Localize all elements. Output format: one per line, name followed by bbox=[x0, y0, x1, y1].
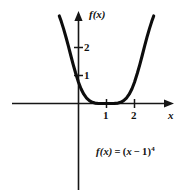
x-axis-label: x bbox=[168, 110, 174, 121]
y-tick-label-1: 1 bbox=[84, 70, 90, 81]
x-axis-arrow-icon bbox=[164, 99, 174, 107]
caption-exponent: 4 bbox=[151, 145, 155, 153]
caption-function-name: f(x) bbox=[96, 146, 113, 157]
y-axis-label: f(x) bbox=[89, 9, 106, 20]
y-tick-label-2: 2 bbox=[84, 42, 90, 53]
x-tick-label-1: 1 bbox=[103, 110, 109, 121]
x-tick-label-2: 2 bbox=[131, 110, 137, 121]
y-axis-arrow-icon bbox=[74, 11, 82, 21]
caption-minus: − bbox=[132, 146, 142, 157]
function-caption: f(x)=(x−1)4 bbox=[96, 146, 155, 157]
quartic-curve bbox=[59, 16, 153, 104]
caption-equals: = bbox=[113, 146, 123, 157]
graph-canvas bbox=[0, 0, 185, 196]
function-graph-figure: f(x) x 1 2 1 2 f(x)=(x−1)4 bbox=[0, 0, 185, 196]
